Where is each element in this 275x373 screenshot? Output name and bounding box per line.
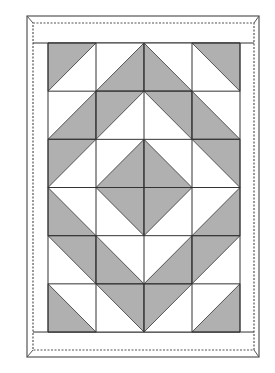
quilt-diagram <box>0 0 275 373</box>
